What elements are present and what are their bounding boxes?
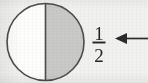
fraction-label-group: 1 2 [93, 23, 106, 67]
fraction-circle [7, 4, 84, 81]
circle-half-left-unshaded [7, 4, 45, 81]
callout-arrow [115, 33, 148, 44]
figure-canvas: 1 2 [0, 0, 148, 83]
fraction-denominator: 2 [94, 45, 104, 66]
fraction-numerator: 1 [94, 23, 104, 44]
fraction-figure: 1 2 [0, 0, 148, 83]
arrow-head-left-icon [115, 33, 127, 44]
circle-half-right-shaded [46, 4, 84, 81]
